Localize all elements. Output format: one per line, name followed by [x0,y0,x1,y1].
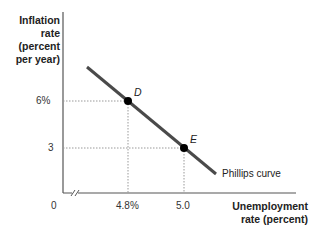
x-axis-label-line: Unemployment [232,200,308,213]
x-axis-label: Unemployment rate (percent) [232,200,308,226]
phillips-curve-line [87,67,216,174]
x-tick-4-8: 4.8% [116,200,139,211]
y-tick-3: 3 [48,142,54,153]
axis-break-icon [71,189,79,197]
point-e-label: E [190,133,197,145]
point-d-label: D [134,86,142,98]
point-e [180,144,188,152]
point-d [124,97,132,105]
x-tick-5-0: 5.0 [176,200,190,211]
x-tick-origin: 0 [51,200,57,211]
x-axis-label-line: rate (percent) [232,213,308,226]
y-tick-6: 6% [36,95,50,106]
chart-plot [0,0,312,232]
phillips-curve-label: Phillips curve [222,168,281,179]
